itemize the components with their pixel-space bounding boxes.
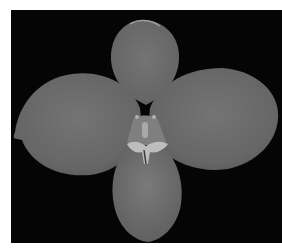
column-highlight	[142, 122, 148, 138]
anther-left	[135, 115, 139, 119]
orchid-flower	[0, 0, 282, 252]
anther-right	[152, 115, 156, 119]
